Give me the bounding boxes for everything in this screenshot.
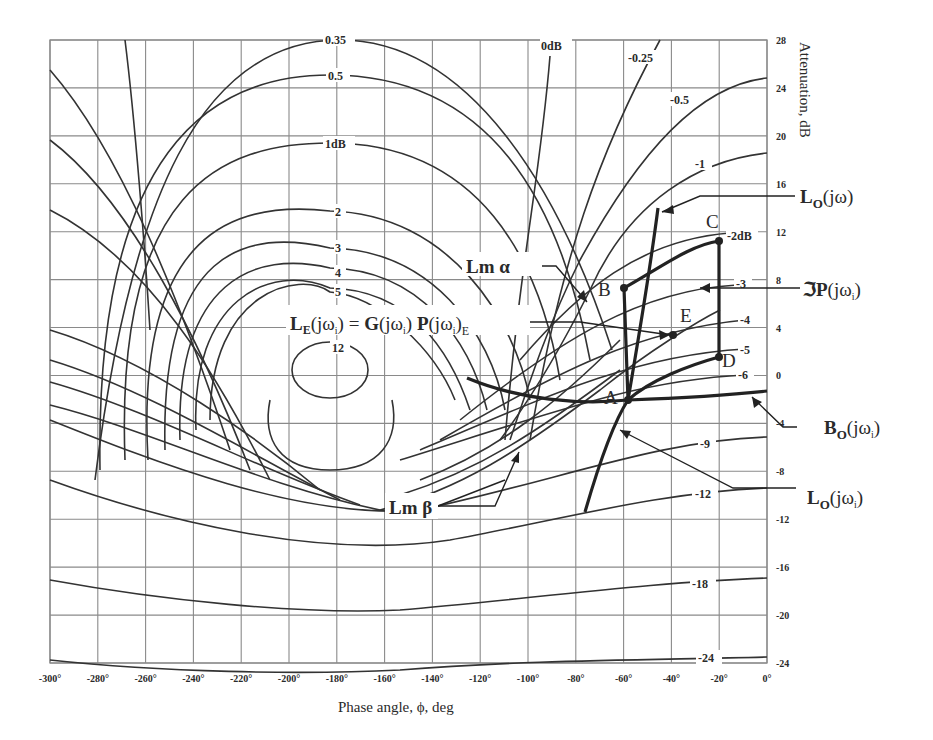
contour-label-0.35: 0.35 — [325, 33, 346, 47]
x-tick-label: -220° — [230, 673, 252, 684]
contour-left-5 — [50, 360, 340, 500]
contour-neg24 — [50, 657, 767, 672]
point-c-label: C — [706, 211, 719, 232]
x-tick-label: -140° — [421, 673, 443, 684]
x-axis-title: Phase angle, ϕ, deg — [338, 699, 454, 715]
point-b-label: B — [598, 279, 611, 300]
arrowhead-icon — [659, 330, 670, 340]
y-tick-label: -8 — [776, 466, 784, 477]
y-tick-label: 16 — [776, 179, 786, 190]
point-c — [715, 237, 723, 245]
y-tick-label: 12 — [776, 227, 786, 238]
contour-label-neg4: -4 — [740, 313, 750, 327]
point-e-label: E — [680, 305, 692, 326]
y-tick-label: 0 — [776, 370, 781, 381]
y-tick-label: 20 — [776, 131, 786, 142]
lm-alpha-label: Lm α — [466, 256, 510, 277]
x-tick-label: -160° — [373, 673, 395, 684]
contour-label-1db: 1dB — [325, 137, 346, 151]
contour-labels: 0.35 0.5 1dB 2 3 4 5 12 0dB -0.25 -0.5 -… — [323, 32, 758, 665]
contour-label-0.5: 0.5 — [328, 69, 343, 83]
contour-left-1 — [50, 70, 230, 450]
contour-left-6 — [50, 382, 360, 505]
point-a-label: A — [604, 387, 618, 408]
arrowhead-icon — [511, 452, 519, 463]
y-axis-ticks: 2824201612840-4-8-12-16-20-24 — [776, 35, 789, 669]
contour-label-neg0.25: -0.25 — [628, 51, 653, 65]
lm-contours — [50, 40, 767, 672]
contour-label-neg2db: -2dB — [727, 229, 752, 243]
x-axis-ticks: -300°-280°-260°-240°-220°-200°-180°-160°… — [39, 673, 772, 684]
point-e — [669, 331, 677, 339]
bo-jwi-label: BO(jωi) — [824, 417, 880, 442]
lo-jw-label: LO(jω) — [800, 186, 853, 211]
contour-label-neg1: -1 — [695, 157, 705, 171]
contour-left-4 — [50, 330, 320, 490]
y-tick-label: -20 — [776, 610, 789, 621]
contour-label-neg5: -5 — [740, 343, 750, 357]
point-d-label: D — [722, 350, 736, 371]
lm-beta-leader-1 — [438, 452, 519, 506]
contour-inner-lower — [268, 400, 394, 470]
contour-label-0db: 0dB — [541, 39, 562, 53]
y-tick-label: -16 — [776, 562, 789, 573]
y-axis-title: Attenuation, dB — [797, 42, 813, 138]
y-tick-label: 8 — [776, 275, 781, 286]
point-b — [620, 284, 628, 292]
y-tick-label: -24 — [776, 658, 789, 669]
contour-label-neg6: -6 — [738, 368, 748, 382]
arrow-heads — [511, 205, 762, 463]
y-tick-label: 24 — [776, 83, 786, 94]
x-tick-label: -240° — [182, 673, 204, 684]
chart-canvas: -300°-280°-260°-240°-220°-200°-180°-160°… — [0, 0, 933, 740]
point-a — [624, 396, 632, 404]
plot-border — [50, 40, 767, 663]
contour-label-neg24: -24 — [698, 651, 714, 665]
contour-label-12: 12 — [332, 341, 344, 355]
contour-label-neg3: -3 — [736, 277, 746, 291]
contour-label-2: 2 — [335, 205, 341, 219]
lo-jwi-label: LO(jωi) — [807, 487, 863, 512]
y-tick-label: 28 — [776, 35, 786, 46]
x-tick-label: -100° — [517, 673, 539, 684]
y-tick-label: -12 — [776, 514, 789, 525]
contour-1db — [124, 143, 560, 460]
x-tick-label: -200° — [278, 673, 300, 684]
x-tick-label: 0° — [763, 673, 772, 684]
contour-label-4: 4 — [335, 266, 341, 280]
x-tick-label: -180° — [326, 673, 348, 684]
contour-label-neg0.5: -0.5 — [670, 93, 689, 107]
arrowhead-icon — [700, 283, 710, 293]
nichols-chart: -300°-280°-260°-240°-220°-200°-180°-160°… — [0, 0, 933, 740]
x-tick-label: -40° — [663, 673, 680, 684]
template-label: ℑP(jωi) — [802, 279, 861, 302]
x-tick-label: -260° — [134, 673, 156, 684]
x-tick-label: -80° — [567, 673, 584, 684]
x-tick-label: -120° — [469, 673, 491, 684]
lm-beta-label: Lm β — [389, 497, 432, 518]
x-tick-label: -20° — [711, 673, 728, 684]
x-tick-label: -280° — [87, 673, 109, 684]
x-tick-label: -60° — [615, 673, 632, 684]
contour-0.35db-right — [340, 40, 612, 350]
lo-jw-leader — [662, 196, 795, 212]
y-tick-label: 4 — [776, 323, 781, 334]
contour-label-5: 5 — [335, 285, 341, 299]
contour-neg18 — [50, 578, 767, 611]
arrowhead-icon — [752, 397, 762, 408]
contour-label-3: 3 — [335, 241, 341, 255]
contour-label-neg12: -12 — [695, 487, 711, 501]
contour-label-neg9: -9 — [700, 437, 710, 451]
contour-label-neg18: -18 — [692, 577, 708, 591]
grid — [50, 40, 767, 663]
arrowhead-icon — [662, 205, 674, 214]
x-tick-label: -300° — [39, 673, 61, 684]
